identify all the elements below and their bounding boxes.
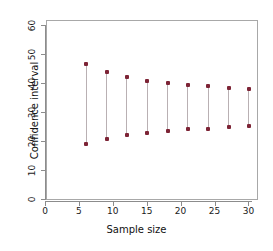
ci-upper-point (145, 79, 149, 83)
ci-lower-point (206, 127, 210, 131)
ci-upper-point (247, 87, 251, 91)
ci-upper-point (125, 75, 129, 79)
ci-lower-point (145, 131, 149, 135)
ci-segment (147, 81, 148, 133)
x-axis-title: Sample size (0, 224, 273, 235)
ci-upper-point (166, 81, 170, 85)
ci-segment (86, 64, 87, 144)
ci-upper-point (84, 62, 88, 66)
ci-upper-point (186, 83, 190, 87)
ci-lower-point (227, 125, 231, 129)
ci-lower-point (105, 137, 109, 141)
ci-segment (126, 77, 127, 135)
data-layer (0, 0, 273, 251)
ci-segment (167, 83, 168, 131)
ci-upper-point (105, 70, 109, 74)
ci-upper-point (227, 86, 231, 90)
ci-lower-point (125, 133, 129, 137)
ci-segment (208, 86, 209, 128)
ci-segment (248, 89, 249, 126)
ci-upper-point (206, 84, 210, 88)
ci-lower-point (166, 129, 170, 133)
confidence-interval-chart: 0102030405060 051015202530 Confidence in… (0, 0, 273, 251)
ci-lower-point (84, 142, 88, 146)
ci-segment (228, 88, 229, 127)
ci-lower-point (247, 124, 251, 128)
ci-segment (106, 72, 107, 139)
ci-segment (187, 85, 188, 130)
ci-lower-point (186, 127, 190, 131)
